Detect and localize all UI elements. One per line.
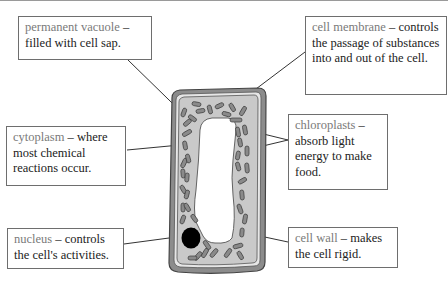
label-permanent-vacuole: permanent vacuole – filled with cell sap… bbox=[18, 16, 152, 60]
label-cell-wall: cell wall – makes the cell rigid. bbox=[288, 227, 398, 268]
label-separator: – bbox=[338, 231, 351, 245]
nucleus-shape bbox=[182, 228, 201, 249]
label-description: absorb light energy to make food. bbox=[295, 134, 372, 179]
label-term: cell membrane bbox=[312, 20, 386, 34]
label-term: nucleus bbox=[14, 232, 52, 246]
label-cell-membrane: cell membrane – controls the passage of … bbox=[305, 16, 447, 95]
label-description: filled with cell sap. bbox=[25, 36, 121, 50]
label-chloroplasts: chloroplasts – absorb light energy to ma… bbox=[288, 114, 388, 190]
label-separator: – bbox=[52, 232, 65, 246]
label-term: cell wall bbox=[295, 231, 338, 245]
label-separator: – bbox=[355, 118, 364, 132]
label-separator: – bbox=[64, 130, 77, 144]
vacuole-shape bbox=[195, 118, 237, 243]
label-separator: – bbox=[120, 20, 129, 34]
label-term: chloroplasts bbox=[295, 118, 355, 132]
label-term: permanent vacuole bbox=[25, 20, 120, 34]
label-cytoplasm: cytoplasm – where most chemical reaction… bbox=[6, 126, 126, 186]
label-term: cytoplasm bbox=[13, 130, 64, 144]
label-nucleus: nucleus – controls the cell's activities… bbox=[7, 228, 124, 269]
label-separator: – bbox=[386, 20, 399, 34]
